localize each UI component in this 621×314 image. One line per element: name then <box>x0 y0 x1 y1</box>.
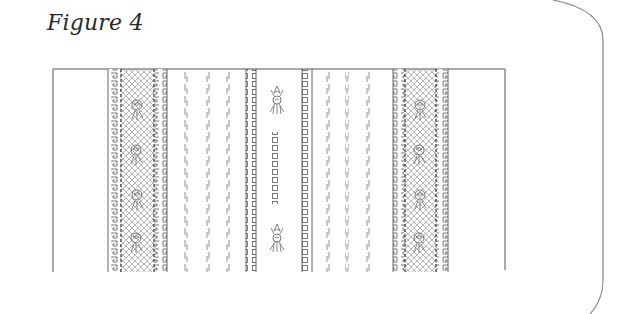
centre-motif <box>270 86 284 252</box>
ladder-band-left <box>246 69 256 272</box>
page-border <box>553 0 603 314</box>
ladder-band-right <box>302 69 312 272</box>
figure-illustration <box>0 0 621 314</box>
pintucks-left <box>184 70 230 272</box>
pintucks-right <box>326 70 370 272</box>
lace-band-right <box>393 69 448 272</box>
lace-band-left <box>108 69 167 272</box>
